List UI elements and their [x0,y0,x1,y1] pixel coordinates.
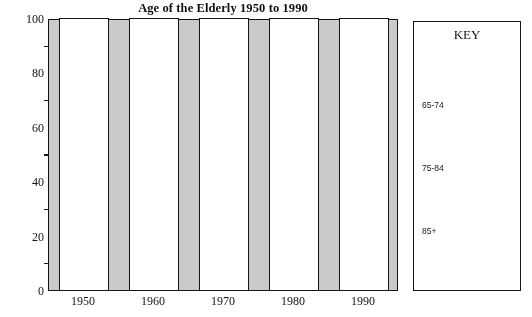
chart-page: Age of the Elderly 1950 to 1990 Percenta… [0,0,532,317]
bar-1980 [269,18,318,290]
y-tick-label: 60 [14,122,44,134]
x-axis-tick-labels: 19501960197019801990 [48,294,398,312]
y-axis-tick-labels: 020406080100 [10,19,44,291]
x-tick-label-1970: 1970 [188,294,258,309]
legend-entry-75-84: 75-84 [422,163,444,173]
y-tick-label: 40 [14,176,44,188]
x-tick-label-1950: 1950 [48,294,118,309]
bar-1990 [339,18,388,290]
legend-entry-65-74: 65-74 [422,100,444,110]
x-tick-label-1980: 1980 [258,294,328,309]
x-tick-label-1960: 1960 [118,294,188,309]
plot-area [48,19,398,291]
bar-1970 [199,18,248,290]
bar-1950 [59,18,108,290]
y-tick-label: 80 [14,67,44,79]
y-tick-label: 0 [14,285,44,297]
x-tick-label-1990: 1990 [328,294,398,309]
legend-entry-85-: 85+ [422,226,436,236]
bar-1960 [129,18,178,290]
y-tick-label: 20 [14,231,44,243]
chart-title: Age of the Elderly 1950 to 1990 [48,1,398,16]
legend-title: KEY [414,27,520,43]
legend-key-box: KEY 65-7475-8485+ [413,21,521,291]
bars-layer [49,20,397,290]
y-tick-label: 100 [14,13,44,25]
